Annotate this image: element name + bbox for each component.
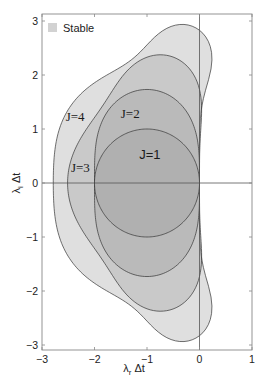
- x-axis-label-tail: Δt: [131, 362, 144, 374]
- y-tick-label: 1: [32, 123, 38, 135]
- stability-region-chart: −3−2−101−3−2−10123 Stable J=4 J=3 J=2 J=…: [0, 0, 262, 391]
- region-label-j1: J=1: [139, 147, 160, 162]
- region-label-j4: J=4: [66, 109, 85, 124]
- x-axis-label: λr Δt: [123, 362, 145, 377]
- x-tick-label: 1: [249, 353, 255, 365]
- legend: Stable: [48, 22, 94, 34]
- y-tick-label: 0: [32, 177, 38, 189]
- legend-label: Stable: [63, 22, 94, 34]
- y-tick-label: −1: [26, 231, 38, 243]
- y-tick-label: 2: [32, 69, 38, 81]
- x-tick-label: −3: [36, 353, 48, 365]
- x-tick-label: 0: [197, 353, 203, 365]
- legend-swatch: [48, 23, 57, 32]
- y-tick-label: −2: [26, 285, 38, 297]
- x-tick-label: −2: [89, 353, 101, 365]
- region-label-j3: J=3: [71, 160, 90, 175]
- y-axis-label: λi Δt: [10, 173, 25, 194]
- y-tick-label: 3: [32, 15, 38, 27]
- region-label-j2: J=2: [121, 106, 140, 121]
- y-axis-label-tail: Δt: [10, 173, 22, 186]
- y-tick-label: −3: [26, 339, 38, 351]
